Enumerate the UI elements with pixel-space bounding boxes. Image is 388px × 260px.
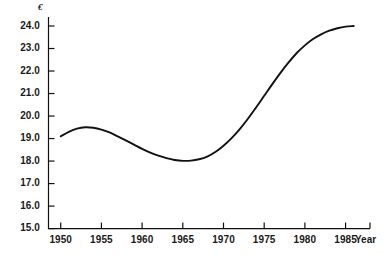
x-axis-tick-label: 1960 <box>122 234 162 245</box>
x-axis-title: Year <box>355 234 376 245</box>
y-axis-tick-label: 19.0 <box>4 132 40 143</box>
x-axis-tick-label: 1955 <box>81 234 121 245</box>
y-axis-tick-label: 23.0 <box>4 42 40 53</box>
y-axis-tick-label: 20.0 <box>4 110 40 121</box>
y-axis-tick-label: 15.0 <box>4 222 40 233</box>
x-axis-tick-label: 1970 <box>203 234 243 245</box>
y-axis-tick-label: 18.0 <box>4 155 40 166</box>
y-axis-tick-label: 16.0 <box>4 200 40 211</box>
x-axis-tick-label: 1965 <box>163 234 203 245</box>
y-axis-tick-label: 17.0 <box>4 177 40 188</box>
y-axis-ticks <box>49 26 55 229</box>
y-axis-unit-label: € <box>38 2 43 12</box>
data-series-line <box>61 26 354 161</box>
y-axis-tick-label: 22.0 <box>4 65 40 76</box>
x-axis-ticks <box>61 223 370 229</box>
chart-container: 15.016.017.018.019.020.021.022.023.024.0… <box>0 0 388 260</box>
chart-plot-svg <box>0 0 388 260</box>
x-axis-tick-label: 1950 <box>41 234 81 245</box>
y-axis-tick-label: 24.0 <box>4 20 40 31</box>
x-axis-tick-label: 1975 <box>244 234 284 245</box>
y-axis-tick-label: 21.0 <box>4 87 40 98</box>
x-axis-tick-label: 1980 <box>285 234 325 245</box>
